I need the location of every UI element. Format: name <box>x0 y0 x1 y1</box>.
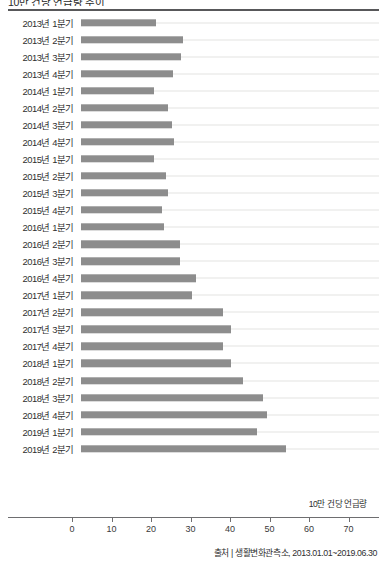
bar-row: 2016년 1분기 <box>0 219 387 236</box>
category-label: 2016년 2분기 <box>0 237 74 251</box>
category-label: 2015년 2분기 <box>0 169 74 183</box>
bar-row: 2018년 2분기 <box>0 372 387 389</box>
bar <box>81 411 267 418</box>
category-label: 2013년 4분기 <box>0 67 74 81</box>
category-label: 2014년 4분기 <box>0 135 74 149</box>
x-axis-ticks: 010203040506070 <box>0 517 387 539</box>
category-label: 2019년 2분기 <box>0 442 74 456</box>
bar <box>81 70 173 77</box>
axis-tick <box>191 517 192 522</box>
bar-row: 2013년 3분기 <box>0 48 387 65</box>
bar-row: 2015년 1분기 <box>0 150 387 167</box>
bar <box>81 172 166 179</box>
axis-tick <box>112 517 113 522</box>
bar-row: 2014년 4분기 <box>0 133 387 150</box>
bar-row: 2017년 3분기 <box>0 321 387 338</box>
bar <box>81 19 156 26</box>
page-title: 10만 건당 언급량 추이 <box>8 0 308 6</box>
axis-tick-label: 50 <box>264 524 274 534</box>
bar <box>81 121 172 128</box>
bar-rows: 2013년 1분기2013년 2분기2013년 3분기2013년 4분기2014… <box>0 14 387 457</box>
category-label: 2016년 4분기 <box>0 271 74 285</box>
bar <box>81 428 257 435</box>
axis-tick-label: 60 <box>304 524 314 534</box>
bar <box>81 292 192 299</box>
category-label: 2018년 2분기 <box>0 374 74 388</box>
bar <box>81 36 183 43</box>
category-label: 2018년 3분기 <box>0 391 74 405</box>
bar-row: 2018년 4분기 <box>0 406 387 423</box>
category-label: 2017년 1분기 <box>0 288 74 302</box>
bar-row: 2017년 1분기 <box>0 287 387 304</box>
category-label: 2019년 1분기 <box>0 425 74 439</box>
axis-tick-label: 30 <box>185 524 195 534</box>
bar <box>81 223 164 230</box>
bar-row: 2013년 4분기 <box>0 65 387 82</box>
x-axis-label: 10만 건당 언급량 <box>309 497 367 509</box>
category-label: 2018년 1분기 <box>0 356 74 370</box>
source-note: 출처 | 생활변화관측소, 2013.01.01~2019.06.30 <box>214 546 377 559</box>
bar-row: 2013년 2분기 <box>0 31 387 48</box>
category-label: 2014년 1분기 <box>0 84 74 98</box>
category-label: 2015년 1분기 <box>0 152 74 166</box>
bar <box>81 138 174 145</box>
bar <box>81 257 180 264</box>
axis-tick-label: 70 <box>343 524 353 534</box>
category-label: 2013년 3분기 <box>0 50 74 64</box>
axis-tick-label: 0 <box>69 524 74 534</box>
chart-plot-area: 2013년 1분기2013년 2분기2013년 3분기2013년 4분기2014… <box>0 14 387 500</box>
axis-tick-label: 20 <box>146 524 156 534</box>
category-label: 2015년 4분기 <box>0 203 74 217</box>
title-divider <box>8 9 379 11</box>
axis-tick <box>230 517 231 522</box>
category-label: 2014년 3분기 <box>0 118 74 132</box>
bar-row: 2016년 4분기 <box>0 270 387 287</box>
bar-row: 2015년 2분기 <box>0 167 387 184</box>
bar <box>81 309 223 316</box>
bar <box>81 240 180 247</box>
category-label: 2018년 4분기 <box>0 408 74 422</box>
bar-row: 2014년 2분기 <box>0 99 387 116</box>
bar <box>81 189 168 196</box>
bar-row: 2016년 2분기 <box>0 236 387 253</box>
axis-tick <box>72 517 73 522</box>
bar-row: 2015년 4분기 <box>0 202 387 219</box>
axis-tick <box>151 517 152 522</box>
axis-tick <box>349 517 350 522</box>
bar <box>81 343 223 350</box>
bar <box>81 445 286 452</box>
axis-tick-label: 10 <box>106 524 116 534</box>
category-label: 2013년 1분기 <box>0 16 74 30</box>
bar <box>81 326 231 333</box>
bar <box>81 394 263 401</box>
axis-tick <box>309 517 310 522</box>
category-label: 2016년 3분기 <box>0 254 74 268</box>
bar-row: 2015년 3분기 <box>0 184 387 201</box>
category-label: 2016년 1분기 <box>0 220 74 234</box>
category-label: 2014년 2분기 <box>0 101 74 115</box>
axis-tick <box>270 517 271 522</box>
bar <box>81 155 154 162</box>
bar <box>81 53 181 60</box>
bar-row: 2016년 3분기 <box>0 253 387 270</box>
bar-row: 2017년 2분기 <box>0 304 387 321</box>
bar-row: 2013년 1분기 <box>0 14 387 31</box>
bar-row: 2018년 1분기 <box>0 355 387 372</box>
bar <box>81 104 168 111</box>
bar <box>81 87 154 94</box>
chart-page: 10만 건당 언급량 추이 2013년 1분기2013년 2분기2013년 3분… <box>0 0 387 568</box>
category-label: 2017년 3분기 <box>0 322 74 336</box>
bar-row: 2014년 3분기 <box>0 116 387 133</box>
category-label: 2013년 2분기 <box>0 33 74 47</box>
category-label: 2015년 3분기 <box>0 186 74 200</box>
axis-tick-label: 40 <box>225 524 235 534</box>
bar-row: 2014년 1분기 <box>0 82 387 99</box>
bar-row: 2019년 2분기 <box>0 440 387 457</box>
category-label: 2017년 2분기 <box>0 305 74 319</box>
bar-row: 2018년 3분기 <box>0 389 387 406</box>
bar <box>81 206 162 213</box>
category-label: 2017년 4분기 <box>0 339 74 353</box>
bar-row: 2019년 1분기 <box>0 423 387 440</box>
bar <box>81 360 231 367</box>
bar-row: 2017년 4분기 <box>0 338 387 355</box>
